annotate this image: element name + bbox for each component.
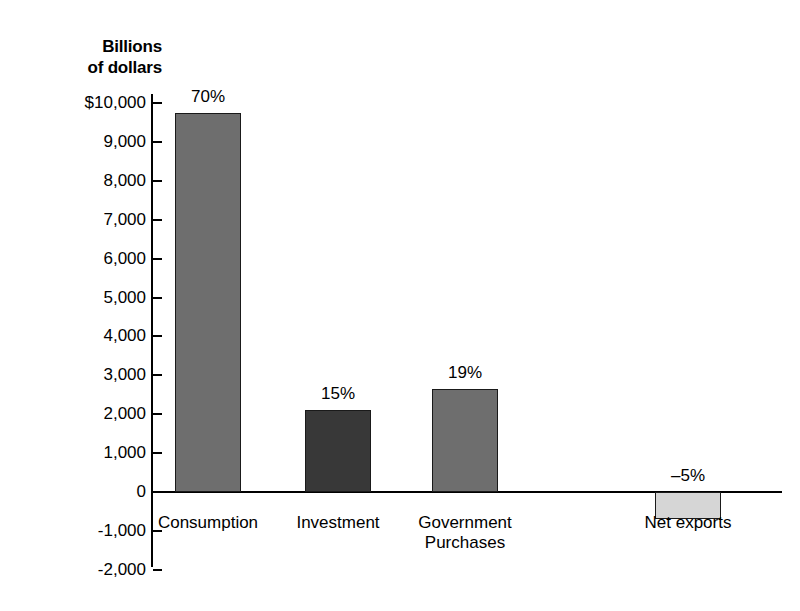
- bar-value-label: 15%: [288, 385, 388, 402]
- bar-value-label: 70%: [158, 88, 258, 105]
- y-axis-tick: [153, 374, 162, 376]
- y-axis-tick: [153, 258, 162, 260]
- y-axis-line: [151, 94, 153, 567]
- y-axis-tick-label: 2,000: [10, 405, 146, 422]
- x-axis-category-label: Government Purchases: [375, 513, 555, 554]
- y-axis-tick-label: 6,000: [10, 250, 146, 267]
- y-axis-tick-label: 8,000: [10, 172, 146, 189]
- bar-value-label: –5%: [638, 467, 738, 484]
- y-axis-tick: [153, 491, 162, 493]
- y-axis-tick-label: $10,000: [10, 94, 146, 111]
- y-axis-tick: [153, 452, 162, 454]
- bar-chart-figure: Billions of dollars $10,0009,0008,0007,0…: [0, 0, 800, 611]
- y-axis-tick-label: -2,000: [10, 561, 146, 578]
- bar-investment: [305, 410, 371, 492]
- y-axis-tick-label: 0: [10, 483, 146, 500]
- y-axis-tick-label: 9,000: [10, 133, 146, 150]
- bar-consumption: [175, 113, 241, 492]
- y-axis-tick: [153, 297, 162, 299]
- y-axis-tick-label: 5,000: [10, 289, 146, 306]
- x-axis-category-label: Net exports: [598, 513, 778, 533]
- bar-value-label: 19%: [415, 364, 515, 381]
- bar-government-purchases: [432, 389, 498, 492]
- y-axis-tick: [153, 335, 162, 337]
- y-axis-tick-label: 4,000: [10, 327, 146, 344]
- y-axis-tick: [153, 219, 162, 221]
- y-axis-tick: [153, 180, 162, 182]
- y-axis-tick: [153, 413, 162, 415]
- y-axis-tick-label: 7,000: [10, 211, 146, 228]
- y-axis-tick-label: 1,000: [10, 444, 146, 461]
- y-axis-tick-label: 3,000: [10, 366, 146, 383]
- y-axis-title: Billions of dollars: [40, 36, 162, 79]
- y-axis-tick: [153, 141, 162, 143]
- y-axis-tick: [153, 569, 162, 571]
